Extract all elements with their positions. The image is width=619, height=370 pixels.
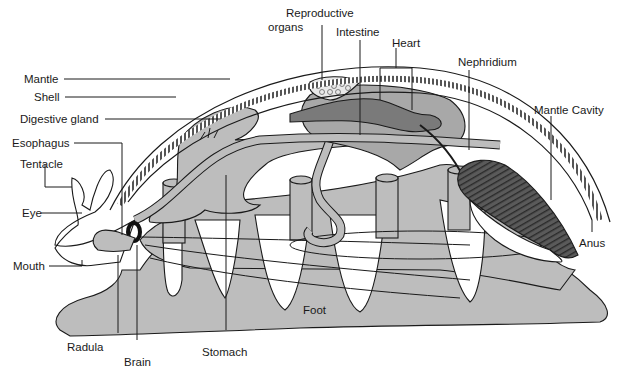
label-shell: Shell <box>34 91 60 103</box>
label-intestine: Intestine <box>336 26 379 38</box>
label-esophagus: Esophagus <box>12 137 70 149</box>
snail-anatomy-diagram: Reproductive organs Intestine Heart Neph… <box>0 0 619 370</box>
label-eye: Eye <box>22 207 42 219</box>
label-reproductive-organs-2: organs <box>268 21 303 33</box>
label-nephridium: Nephridium <box>458 56 517 68</box>
label-heart: Heart <box>392 37 421 49</box>
label-reproductive-organs-1: Reproductive <box>286 7 354 19</box>
label-foot: Foot <box>303 304 327 316</box>
label-mantle-cavity: Mantle Cavity <box>534 104 604 116</box>
label-mouth: Mouth <box>13 260 45 272</box>
label-tentacle: Tentacle <box>20 158 63 170</box>
label-anus: Anus <box>579 237 605 249</box>
label-radula: Radula <box>67 341 104 353</box>
label-digestive-gland: Digestive gland <box>20 113 99 125</box>
label-brain: Brain <box>124 356 151 368</box>
label-mantle: Mantle <box>24 73 59 85</box>
label-stomach: Stomach <box>202 346 247 358</box>
